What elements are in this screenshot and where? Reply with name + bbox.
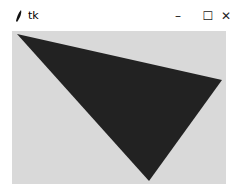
drawing-canvas[interactable] <box>12 31 226 184</box>
triangle-shape <box>17 34 222 181</box>
minimize-button[interactable]: – <box>163 6 193 26</box>
title-bar[interactable]: tk – ☐ ✕ <box>0 0 238 31</box>
close-icon: ✕ <box>221 9 231 23</box>
window-title: tk <box>28 9 39 22</box>
close-button[interactable]: ✕ <box>211 6 238 26</box>
minimize-icon: – <box>175 9 181 23</box>
feather-icon <box>16 10 22 22</box>
canvas-surface <box>12 31 226 184</box>
